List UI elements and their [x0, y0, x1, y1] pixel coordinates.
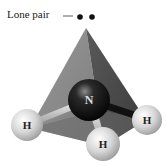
svg-text:H: H — [143, 114, 152, 126]
lone-pair-dot-2 — [89, 14, 95, 20]
lone-pair-dot-1 — [77, 14, 83, 20]
ammonia-diagram: N H H H Lone pair — [0, 0, 166, 166]
hydrogen-atom-right: H — [132, 105, 162, 135]
lone-pair-label: Lone pair — [7, 8, 49, 20]
svg-text:H: H — [23, 119, 32, 131]
svg-text:H: H — [99, 138, 108, 150]
hydrogen-atom-front: H — [86, 127, 120, 161]
hydrogen-atom-left: H — [11, 109, 43, 141]
svg-text:N: N — [85, 93, 94, 107]
nitrogen-atom: N — [68, 79, 110, 121]
molecule-illustration: N H H H — [0, 0, 166, 166]
